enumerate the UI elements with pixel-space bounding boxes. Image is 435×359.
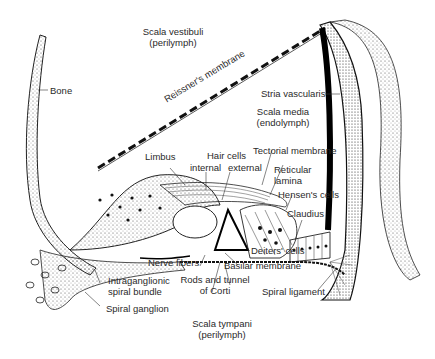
cochlea-diagram: Scala vestibuli (perilymph) Scala media …	[0, 0, 435, 359]
label-line: Intraganglionic	[108, 275, 170, 286]
inner-sulcus-shape	[173, 206, 217, 238]
label-line: (endolymph)	[248, 117, 318, 128]
label-limbus: Limbus	[145, 151, 176, 162]
label-line: Reticular	[274, 164, 312, 175]
label-bone: Bone	[50, 85, 72, 96]
label-line: Scala media	[248, 106, 318, 117]
label-line: Scala vestibuli	[128, 26, 218, 37]
label-stria-vascularis: Stria vascularis	[261, 88, 325, 99]
label-intraganglionic-spiral-bundle: Intraganglionic spiral bundle	[108, 275, 170, 297]
label-hair-cells: Hair cells	[207, 150, 246, 161]
label-line: (perilymph)	[182, 329, 262, 340]
label-line: of Corti	[176, 285, 254, 296]
label-scala-vestibuli: Scala vestibuli (perilymph)	[128, 26, 218, 48]
lateral-wall-shape	[320, 20, 420, 300]
label-rods-and-tunnel: Rods and tunnel of Corti	[176, 274, 254, 296]
label-external: external	[228, 162, 262, 173]
label-tectorial-membrane: Tectorial membrane	[253, 145, 336, 156]
label-deiters-cells: Deiters' cells	[251, 245, 305, 256]
label-internal: internal	[190, 162, 221, 173]
label-scala-tympani: Scala tympani (perilymph)	[182, 318, 262, 340]
label-nerve-fibers: Nerve fibers	[148, 257, 199, 268]
label-hensens-cells: Hensen's cells	[278, 189, 339, 200]
label-spiral-ganglion: Spiral ganglion	[106, 303, 169, 314]
label-spiral-ligament: Spiral ligament	[262, 286, 325, 297]
label-claudius: Claudius	[287, 208, 324, 219]
label-scala-media: Scala media (endolymph)	[248, 106, 318, 128]
label-line: Rods and tunnel	[176, 274, 254, 285]
label-line: lamina	[274, 175, 312, 186]
cochlea-illustration	[0, 0, 435, 359]
label-line: spiral bundle	[108, 286, 170, 297]
label-basilar-membrane: Basilar membrane	[224, 260, 301, 271]
label-line: Scala tympani	[182, 318, 262, 329]
label-reticular-lamina: Reticular lamina	[274, 164, 312, 186]
label-line: (perilymph)	[128, 37, 218, 48]
